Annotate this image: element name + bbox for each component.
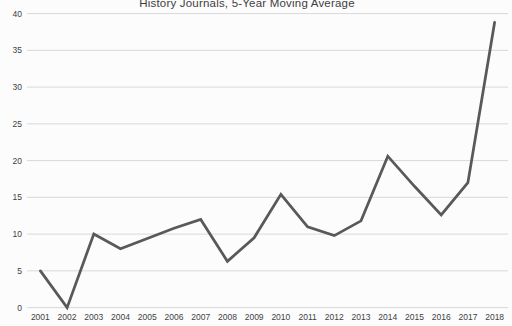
series-line [40,22,494,307]
x-axis-tick-label: 2011 [298,312,317,322]
y-axis-tick-label: 30 [13,82,23,92]
x-axis-tick-label: 2009 [245,312,264,322]
y-axis-tick-label: 25 [13,119,23,129]
line-chart: History Journals, 5-Year Moving Average … [0,0,512,326]
y-axis-tick-label: 35 [13,45,23,55]
x-axis-tick-label: 2015 [405,312,424,322]
x-axis-tick-label: 2006 [165,312,184,322]
x-axis-tick-label: 2004 [111,312,130,322]
x-axis-tick-label: 2005 [138,312,157,322]
x-axis-tick-label: 2010 [271,312,290,322]
y-axis-tick-label: 5 [17,266,22,276]
x-axis-tick-label: 2013 [352,312,371,322]
x-axis-tick-label: 2002 [58,312,77,322]
plot-area: 0510152025303540200120022003200420052006… [0,0,512,326]
y-axis-tick-label: 15 [13,192,23,202]
y-axis-tick-label: 20 [13,156,23,166]
x-axis-tick-label: 2008 [218,312,237,322]
x-axis-tick-label: 2017 [458,312,477,322]
x-axis-tick-label: 2001 [31,312,50,322]
x-axis-tick-label: 2012 [325,312,344,322]
x-axis-tick-label: 2016 [432,312,451,322]
x-axis-tick-label: 2018 [485,312,504,322]
x-axis-tick-label: 2014 [378,312,397,322]
y-axis-tick-label: 40 [13,9,23,19]
y-axis-tick-label: 0 [17,303,22,313]
x-axis-tick-label: 2007 [191,312,210,322]
x-axis-tick-label: 2003 [84,312,103,322]
y-axis-tick-label: 10 [13,229,23,239]
